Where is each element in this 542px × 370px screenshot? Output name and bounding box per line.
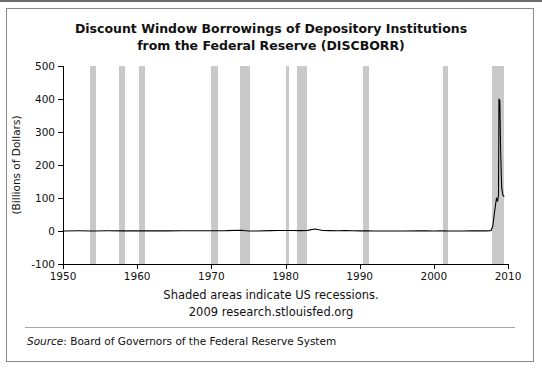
x-tick xyxy=(360,264,361,269)
y-tick-label: 300 xyxy=(35,126,55,138)
y-tick-label: -100 xyxy=(31,258,55,270)
source-divider xyxy=(25,327,515,328)
y-tick xyxy=(58,198,63,199)
y-tick xyxy=(58,231,63,232)
source-line: Source: Board of Governors of the Federa… xyxy=(27,335,336,347)
y-tick xyxy=(58,66,63,67)
x-tick xyxy=(286,264,287,269)
x-tick-label: 1970 xyxy=(198,270,225,282)
series-line-discborr xyxy=(63,66,508,264)
chart-page: Discount Window Borrowings of Depository… xyxy=(0,0,542,370)
source-label: Source xyxy=(27,335,63,347)
page-top-rule xyxy=(0,0,542,2)
y-tick-label: 500 xyxy=(35,60,55,72)
x-tick-label: 1990 xyxy=(346,270,373,282)
x-tick-label: 1950 xyxy=(50,270,77,282)
source-text: : Board of Governors of the Federal Rese… xyxy=(63,335,336,347)
x-tick xyxy=(508,264,509,269)
y-tick xyxy=(58,132,63,133)
y-axis-line xyxy=(63,66,64,264)
chart-title-line2: from the Federal Reserve (DISCBORR) xyxy=(0,37,542,54)
y-axis-label: (Billions of Dollars) xyxy=(10,0,24,66)
recession-note: Shaded areas indicate US recessions. xyxy=(0,288,542,302)
x-tick-label: 1960 xyxy=(124,270,151,282)
plot-area: -1000100200300400500 1950196019701980199… xyxy=(63,66,508,264)
y-tick-label: 0 xyxy=(48,225,55,237)
chart-title-line1: Discount Window Borrowings of Depository… xyxy=(0,20,542,37)
y-tick-label: 200 xyxy=(35,159,55,171)
y-tick-label: 100 xyxy=(35,192,55,204)
x-tick-label: 1980 xyxy=(272,270,299,282)
y-axis-label-text: (Billions of Dollars) xyxy=(10,66,22,264)
x-tick xyxy=(211,264,212,269)
x-tick xyxy=(63,264,64,269)
x-tick xyxy=(434,264,435,269)
x-tick xyxy=(137,264,138,269)
y-tick xyxy=(58,165,63,166)
y-tick-label: 400 xyxy=(35,93,55,105)
x-tick-label: 2000 xyxy=(420,270,447,282)
y-tick xyxy=(58,99,63,100)
attribution-note: 2009 research.stlouisfed.org xyxy=(0,305,542,319)
x-tick-label: 2010 xyxy=(495,270,522,282)
